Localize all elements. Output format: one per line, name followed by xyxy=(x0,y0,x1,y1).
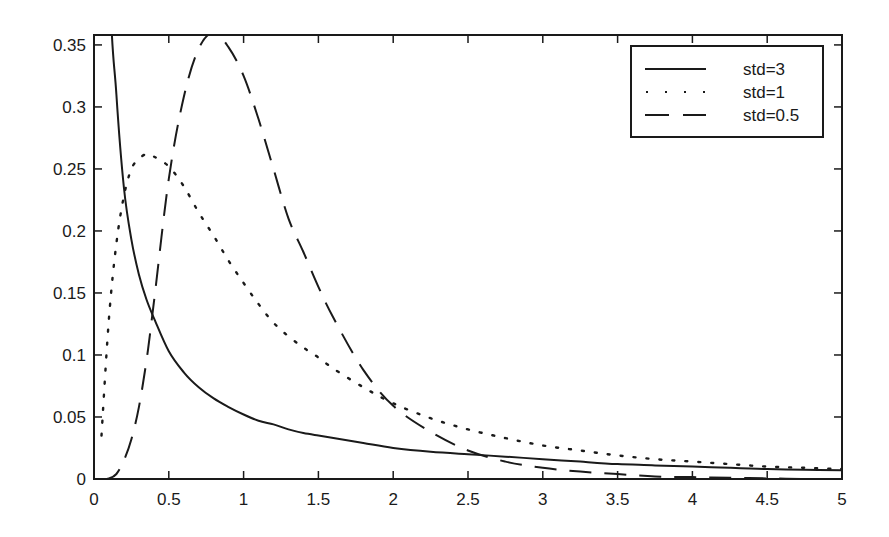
x-tick-label: 4 xyxy=(688,490,697,509)
x-tick-label: 2 xyxy=(388,490,397,509)
legend-label-std-0-5: std=0.5 xyxy=(743,106,799,125)
y-tick-label: 0.3 xyxy=(62,98,86,117)
x-tick-label: 0.5 xyxy=(157,490,181,509)
legend-label-std-1: std=1 xyxy=(743,83,785,102)
y-tick-label: 0.15 xyxy=(53,284,86,303)
y-tick-label: 0.05 xyxy=(53,408,86,427)
legend: std=3 std=1 std=0.5 xyxy=(631,46,823,137)
y-tick-label: 0 xyxy=(77,470,86,489)
legend-label-std-3: std=3 xyxy=(743,60,785,79)
x-tick-label: 3.5 xyxy=(606,490,630,509)
y-axis-tick-labels: 00.050.10.150.20.250.30.35 xyxy=(53,36,86,489)
x-tick-label: 2.5 xyxy=(456,490,480,509)
y-tick-label: 0.35 xyxy=(53,36,86,55)
x-tick-label: 4.5 xyxy=(755,490,779,509)
x-tick-label: 1.5 xyxy=(307,490,331,509)
x-tick-label: 5 xyxy=(837,490,846,509)
y-tick-label: 0.25 xyxy=(53,160,86,179)
series-line-std-1 xyxy=(102,154,843,469)
x-tick-label: 0 xyxy=(89,490,98,509)
y-tick-label: 0.2 xyxy=(62,222,86,241)
y-tick-label: 0.1 xyxy=(62,346,86,365)
x-tick-label: 1 xyxy=(239,490,248,509)
line-chart: 00.511.522.533.544.55 00.050.10.150.20.2… xyxy=(0,0,889,537)
x-tick-label: 3 xyxy=(538,490,547,509)
x-axis-tick-labels: 00.511.522.533.544.55 xyxy=(89,490,846,509)
